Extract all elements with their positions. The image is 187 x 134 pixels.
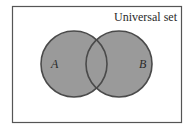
set-b-label: B [139,57,147,71]
set-a-label: A [50,57,59,71]
universal-set-label: Universal set [114,10,178,24]
venn-diagram: Universal set A B [0,0,187,134]
